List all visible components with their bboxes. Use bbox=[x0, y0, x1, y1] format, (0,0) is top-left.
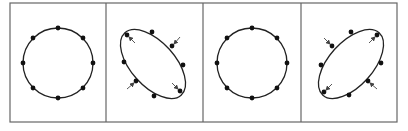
force-arrow-icon bbox=[326, 84, 332, 90]
force-arrow-icon bbox=[369, 37, 375, 43]
panel-4 bbox=[307, 18, 396, 110]
particle-dot bbox=[366, 79, 371, 84]
particle-dot bbox=[152, 94, 157, 99]
particle-dot bbox=[225, 36, 230, 41]
particle-dot bbox=[150, 30, 155, 35]
particle-dot bbox=[285, 61, 290, 66]
particle-dot bbox=[319, 63, 324, 68]
panel-dividers bbox=[106, 3, 301, 122]
force-arrow-icon bbox=[127, 83, 134, 89]
diagram-canvas bbox=[0, 0, 408, 131]
particle-dot bbox=[91, 61, 96, 66]
force-arrow-icon bbox=[324, 38, 330, 44]
particle-dot bbox=[181, 63, 186, 68]
particle-dot bbox=[31, 36, 36, 41]
particle-dot bbox=[21, 61, 26, 66]
particle-dot bbox=[122, 60, 127, 65]
particle-dot bbox=[275, 36, 280, 41]
particle-dot bbox=[81, 36, 86, 41]
force-arrow-icon bbox=[370, 83, 377, 89]
particle-dot bbox=[56, 96, 61, 101]
particle-dot bbox=[322, 90, 327, 95]
panels bbox=[21, 18, 396, 110]
particle-dot bbox=[125, 33, 130, 38]
particle-dot bbox=[56, 26, 61, 31]
particle-dot bbox=[275, 86, 280, 91]
particle-dot bbox=[81, 86, 86, 91]
force-arrow-icon bbox=[172, 83, 178, 89]
particle-dot bbox=[250, 96, 255, 101]
particle-dot bbox=[330, 44, 335, 49]
force-arrow-icon bbox=[129, 37, 135, 43]
particle-dot bbox=[375, 33, 380, 38]
particle-dot bbox=[225, 86, 230, 91]
particle-dot bbox=[134, 79, 139, 84]
particle-dot bbox=[170, 44, 175, 49]
particle-dot bbox=[178, 89, 183, 94]
panel-3 bbox=[215, 26, 290, 101]
panel-1 bbox=[21, 26, 96, 101]
figure bbox=[0, 0, 408, 131]
force-arrow-icon bbox=[174, 37, 180, 44]
particle-dot bbox=[349, 30, 354, 35]
particle-dot bbox=[215, 61, 220, 66]
particle-dot bbox=[347, 93, 352, 98]
particle-dot bbox=[379, 61, 384, 66]
particle-dot bbox=[31, 86, 36, 91]
particle-dot bbox=[250, 26, 255, 31]
panel-2 bbox=[109, 18, 198, 110]
